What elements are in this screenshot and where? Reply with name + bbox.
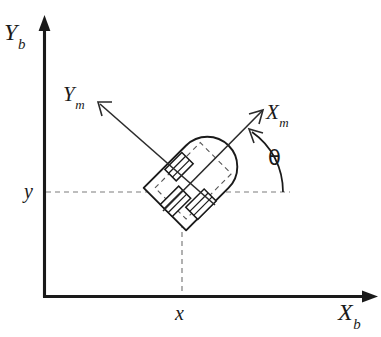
diagram-svg	[0, 0, 381, 337]
theta-angle-label: θ	[268, 148, 281, 169]
diagram-canvas: Yb Xb Ym Xm y x θ	[0, 0, 381, 337]
y-axis-label: Yb	[4, 20, 25, 49]
x-axis-arrowhead	[362, 291, 378, 303]
y-coordinate-label: y	[24, 181, 33, 201]
ym-vector-label: Ym	[63, 84, 84, 108]
x-coordinate-label: x	[175, 303, 184, 323]
y-axis-arrowhead	[39, 15, 51, 31]
xm-vector-label: Xm	[266, 102, 288, 126]
x-axis-label: Xb	[338, 300, 360, 329]
